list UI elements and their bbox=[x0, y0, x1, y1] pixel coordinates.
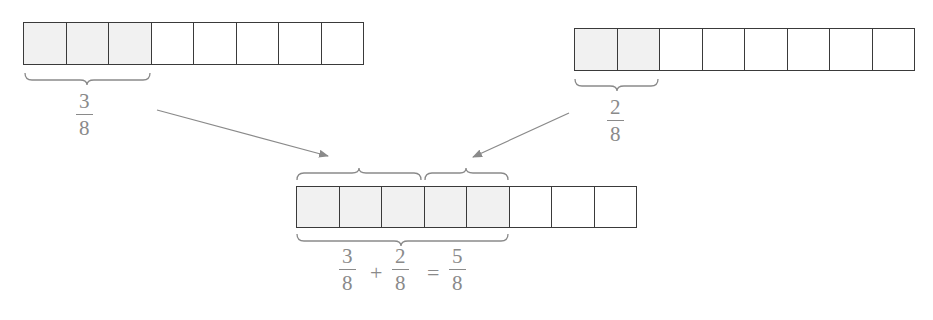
brace-under-two-eighths bbox=[575, 79, 658, 91]
brace-under-three-eighths bbox=[25, 73, 150, 85]
braces-and-arrows bbox=[0, 0, 933, 320]
brace-over-three-eighths bbox=[297, 168, 421, 180]
arrow-right-to-result bbox=[473, 113, 569, 157]
arrow-left-to-result bbox=[157, 110, 328, 156]
brace-under-five-eighths bbox=[297, 234, 508, 246]
fraction-addition-diagram: 3 8 2 8 3 8 + 2 8 = 5 8 bbox=[0, 0, 933, 320]
brace-over-two-eighths bbox=[425, 168, 508, 180]
